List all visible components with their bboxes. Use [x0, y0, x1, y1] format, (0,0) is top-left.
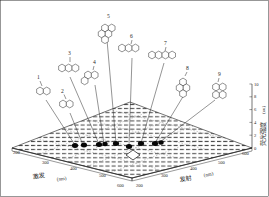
structure-number-4: 4	[93, 59, 96, 65]
surface-plane	[12, 102, 252, 178]
structure-number-7: 7	[164, 40, 167, 46]
excitation-axis-label: 激发	[32, 171, 45, 181]
emission-tick-300: 300	[161, 173, 169, 178]
molecule-structure-5: 5	[98, 13, 115, 44]
intensity-axis-label: 荧光强度	[259, 122, 267, 146]
molecule-structure-2: 2	[60, 88, 73, 108]
data-point-3[interactable]	[96, 142, 102, 147]
data-point-5[interactable]	[113, 141, 119, 146]
intensity-axis: 0 2 4 6 8 10 荧光强度 (au)	[249, 82, 267, 151]
intensity-tick-4: 4	[254, 120, 257, 125]
intensity-tick-8: 8	[254, 94, 257, 99]
emission-tick-200: 200	[136, 183, 144, 188]
emission-tick-600: 600	[242, 151, 250, 156]
data-point-2[interactable]	[81, 143, 87, 148]
structure-number-1: 1	[37, 74, 40, 80]
excitation-axis-unit: (nm)	[56, 176, 67, 182]
data-point-8[interactable]	[152, 141, 158, 146]
molecule-structure-4: 4	[81, 59, 98, 85]
structure-number-9: 9	[218, 71, 221, 77]
intensity-tick-0: 0	[254, 146, 257, 151]
data-point-9[interactable]	[158, 140, 163, 144]
intensity-tick-2: 2	[254, 133, 257, 138]
intensity-tick-6: 6	[254, 107, 257, 112]
emission-axis-unit: (nm)	[203, 171, 214, 178]
excitation-tick-600: 600	[117, 183, 125, 188]
data-point-6[interactable]	[126, 144, 132, 149]
emission-axis-label: 发射	[179, 174, 192, 184]
intensity-axis-unit: (au)	[261, 106, 266, 114]
data-point-4[interactable]	[102, 142, 107, 146]
intensity-tick-10: 10	[254, 82, 259, 87]
fluorescence-eem-figure: 0 2 4 6 8 10 荧光强度 (au) 200 300 400 500 6…	[0, 0, 269, 197]
molecule-structure-7: 7	[149, 40, 176, 59]
molecule-structure-1: 1	[37, 74, 50, 95]
molecule-structure-6: 6	[119, 33, 139, 52]
excitation-tick-300: 300	[42, 160, 50, 165]
emission-tick-500: 500	[218, 160, 226, 165]
structure-number-5: 5	[107, 13, 110, 19]
molecule-structure-9: 9	[213, 71, 226, 99]
data-point-1[interactable]	[72, 143, 78, 148]
molecule-structure-3: 3	[59, 50, 79, 72]
structure-number-2: 2	[61, 88, 64, 94]
molecule-structure-8: 8	[176, 65, 189, 98]
excitation-tick-400: 400	[70, 166, 78, 171]
plot-canvas: 0 2 4 6 8 10 荧光强度 (au) 200 300 400 500 6…	[0, 0, 269, 197]
structure-number-3: 3	[68, 50, 71, 56]
excitation-tick-500: 500	[99, 173, 107, 178]
emission-tick-400: 400	[190, 166, 198, 171]
structure-number-8: 8	[186, 65, 189, 71]
structure-number-6: 6	[130, 33, 133, 39]
data-point-7[interactable]	[138, 141, 144, 146]
excitation-tick-200: 200	[13, 150, 21, 155]
